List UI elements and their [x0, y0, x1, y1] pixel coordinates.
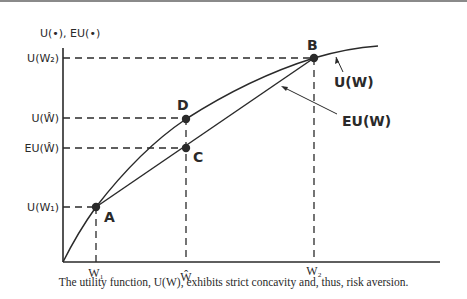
y-tick-u-what: U(Ŵ): [31, 112, 59, 125]
guide-lines: [63, 58, 314, 262]
y-tick-eu-what: EU(Ŵ): [25, 142, 59, 155]
eu-arrow-line: [283, 87, 337, 114]
utility-diagram: A B C D U(•), EU(•) U(W₂) U(Ŵ) EU(Ŵ) U(W…: [0, 0, 467, 299]
point-d: [182, 115, 190, 123]
utility-curve: [63, 46, 378, 262]
expected-utility-label: EU(W): [342, 113, 391, 129]
y-tick-u-w2: U(W₂): [27, 52, 59, 65]
figure-caption: The utility function, U(W), exhibits str…: [0, 276, 467, 288]
label-point-d: D: [177, 97, 189, 113]
label-point-a: A: [104, 209, 115, 225]
y-axis-label: U(•), EU(•): [40, 27, 100, 40]
point-b: [310, 54, 318, 62]
point-a: [92, 203, 100, 211]
point-c: [182, 144, 190, 152]
expected-utility-line: [96, 58, 314, 207]
label-point-b: B: [307, 37, 318, 53]
utility-curve-label: U(W): [334, 74, 374, 90]
y-tick-u-w1: U(W₁): [27, 201, 59, 214]
eu-arrow-icon: [281, 86, 288, 91]
label-point-c: C: [193, 149, 203, 165]
